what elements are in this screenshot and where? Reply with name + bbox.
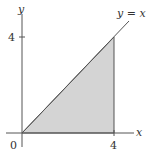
x-tick-label: 4 bbox=[110, 139, 117, 152]
region-diagram: y x 0 4 4 y = x bbox=[0, 0, 149, 155]
x-axis-label: x bbox=[136, 126, 143, 139]
y-tick-label: 4 bbox=[8, 31, 15, 44]
line-label: y = x bbox=[116, 7, 146, 20]
origin-label: 0 bbox=[10, 139, 17, 152]
y-axis-label: y bbox=[17, 3, 25, 16]
